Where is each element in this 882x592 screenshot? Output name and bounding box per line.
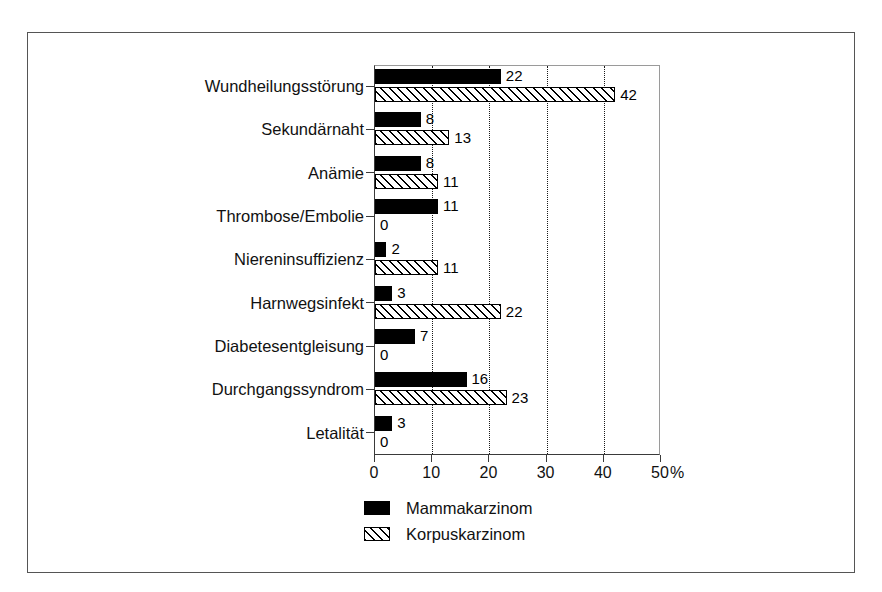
category-label: Wundheilungsstörung [34,77,364,95]
legend-item-label: Mammakarzinom [406,499,533,517]
bar-group: 322 [375,283,659,326]
x-axis-tick [431,455,432,462]
bar-value-label: 22 [506,68,523,83]
bar-mammakarzinom [375,286,392,301]
x-axis-tick-label: 20 [479,464,497,482]
bar-value-label: 22 [506,304,523,319]
bar-group: 2242 [375,66,659,109]
bar-value-label: 3 [397,285,405,300]
bar-value-label: 42 [620,87,637,102]
category-label: Durchgangssyndrom [34,380,364,398]
bar-value-label: 8 [426,111,434,126]
bar-value-label: 0 [380,434,388,449]
category-tick [366,86,375,87]
bar-value-label: 7 [420,328,428,343]
bar-mammakarzinom [375,372,467,387]
bar-value-label: 13 [454,130,471,145]
bar-group: 70 [375,326,659,369]
x-axis-tick [660,455,661,462]
bar-korpuskarzinom [375,304,501,319]
bar-group: 211 [375,239,659,282]
category-tick [366,129,375,130]
bar-value-label: 0 [380,217,388,232]
bar-value-label: 11 [443,198,459,213]
bar-korpuskarzinom [375,174,438,189]
bar-value-label: 23 [512,390,529,405]
category-label: Harnwegsinfekt [34,294,364,312]
solid-black-swatch [364,501,390,515]
bar-group: 30 [375,413,659,456]
category-axis-labels: WundheilungsstörungSekundärnahtAnämieThr… [28,65,364,455]
x-axis-tick-label: 50 [651,464,669,482]
bar-korpuskarzinom [375,390,507,405]
x-axis-tick-label: 0 [370,464,379,482]
bar-value-label: 3 [397,415,405,430]
bar-value-label: 16 [472,371,489,386]
bar-mammakarzinom [375,112,421,127]
x-axis-tick-label: 30 [537,464,555,482]
bar-korpuskarzinom [375,130,449,145]
bar-mammakarzinom [375,416,392,431]
legend-item-label: Korpuskarzinom [406,525,525,543]
category-tick [366,302,375,303]
hatched-swatch [364,527,390,541]
category-tick [366,216,375,217]
category-tick [366,172,375,173]
plot-area: 224281381111021132270162330 [374,65,660,455]
x-axis-tick [374,455,375,462]
bar-korpuskarzinom [375,87,615,102]
bar-korpuskarzinom [375,260,438,275]
x-axis-tick [603,455,604,462]
figure-frame: WundheilungsstörungSekundärnahtAnämieThr… [27,32,855,573]
category-tick [366,389,375,390]
category-label: Thrombose/Embolie [34,207,364,225]
x-axis-tick [546,455,547,462]
legend-item: Korpuskarzinom [364,521,694,547]
bar-mammakarzinom [375,156,421,171]
bar-mammakarzinom [375,69,501,84]
bar-group: 1623 [375,369,659,412]
bar-value-label: 2 [391,241,399,256]
bar-value-label: 0 [380,347,388,362]
bar-group: 110 [375,196,659,239]
category-label: Sekundärnaht [34,120,364,138]
category-tick [366,346,375,347]
bar-mammakarzinom [375,329,415,344]
x-axis-tick-label: 40 [594,464,612,482]
chart-legend: MammakarzinomKorpuskarzinom [364,495,694,547]
bar-value-label: 11 [443,174,459,189]
category-tick [366,432,375,433]
bar-group: 813 [375,109,659,152]
x-axis-tick [488,455,489,462]
bar-mammakarzinom [375,199,438,214]
x-axis-tick-label: 10 [422,464,440,482]
x-axis-unit-label: % [670,464,684,482]
category-label: Anämie [34,164,364,182]
bar-group: 811 [375,153,659,196]
value-axis: % 01020304050 [374,455,660,495]
category-tick [366,259,375,260]
legend-item: Mammakarzinom [364,495,694,521]
category-label: Diabetesentgleisung [34,337,364,355]
category-label: Letalität [34,424,364,442]
category-label: Niereninsuffizienz [34,250,364,268]
bar-chart: WundheilungsstörungSekundärnahtAnämieThr… [28,33,856,574]
bar-mammakarzinom [375,242,386,257]
bar-value-label: 8 [426,155,434,170]
bar-value-label: 11 [443,260,459,275]
